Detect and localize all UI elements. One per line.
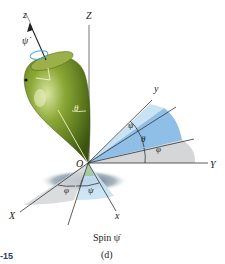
spinning-top-body [24,57,90,163]
panel-label: (d) [101,250,113,260]
Z-axis-label: Z [86,11,92,21]
psi-lower-label: ψ [88,186,94,195]
top-highlight [34,89,46,107]
origin-label: O [76,159,83,169]
theta-top-label: θ [74,104,78,113]
top-spin-diagram [0,0,225,264]
phi-right-label: φ [156,145,161,154]
x-axis-label: x [115,211,119,221]
X-axis-label: X [9,211,15,221]
psi-upper-label: ψ [128,121,134,130]
phi-lower-label: φ [64,186,69,195]
z-axis-arrowhead [27,22,33,32]
y-axis-label: y [154,84,158,94]
Y-axis-label: Y [210,160,216,170]
caption-spin: Spin ψ̇ [93,233,120,243]
psi-dot-label: ψ̇ [22,36,28,46]
theta-right-label: θ [141,135,145,144]
z-axis-label: z [23,10,27,20]
figure-number: -15 [0,252,13,261]
top-dot [24,78,27,81]
